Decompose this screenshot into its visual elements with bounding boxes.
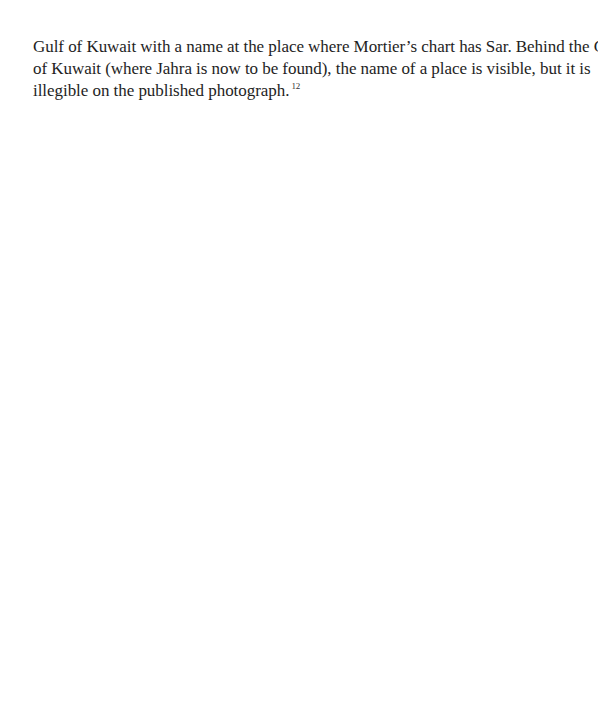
body-paragraph: Gulf of Kuwait with a name at the place … (33, 36, 565, 102)
paragraph-line-3-text: illegible on the published photograph. (33, 81, 289, 100)
document-page: Gulf of Kuwait with a name at the place … (0, 0, 598, 701)
paragraph-line-2: of Kuwait (where Jahra is now to be foun… (33, 58, 565, 80)
footnote-reference[interactable]: 12 (291, 81, 300, 91)
paragraph-line-1: Gulf of Kuwait with a name at the place … (33, 36, 565, 58)
paragraph-line-3: illegible on the published photograph.12 (33, 80, 565, 102)
